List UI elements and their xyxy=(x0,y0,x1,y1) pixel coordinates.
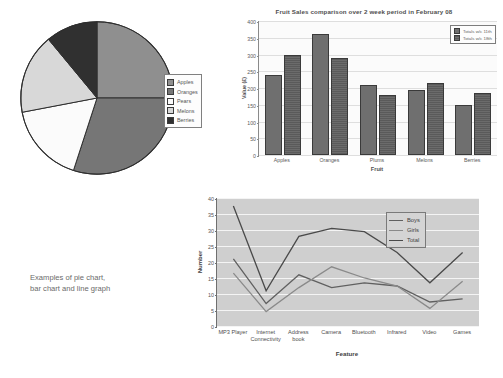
bar-x-tick-melons: Melons xyxy=(401,157,449,163)
bar-x-tick-apples: Apples xyxy=(258,157,306,163)
pie-svg xyxy=(18,19,176,177)
line-x-tick-internet-connectivity: Internet Connectivity xyxy=(249,329,282,343)
legend-item-week2: Totals w/c 18th xyxy=(454,35,492,42)
bar-x-axis-label: Fruit xyxy=(258,166,496,172)
bar-x-axis-ticks: ApplesOrangesPlumsMelonsBerries xyxy=(258,157,496,163)
bar-group-plums xyxy=(354,21,402,155)
legend-dash-total xyxy=(389,240,403,241)
bar-y-tick-350: 350 xyxy=(230,36,256,42)
legend-item-melons: Melons xyxy=(167,106,198,115)
bar-y-tick-100: 100 xyxy=(230,120,256,126)
legend-swatch-week1 xyxy=(454,28,461,35)
line-series-total xyxy=(233,206,462,291)
line-y-axis-label: Number xyxy=(197,251,203,274)
line-x-axis-ticks: MP3 PlayerInternet ConnectivityAddress b… xyxy=(216,329,478,343)
caption-line-2: bar chart and line graph xyxy=(30,283,180,294)
legend-label-girls: Girls xyxy=(407,227,419,233)
bar-x-tick-berries: Berries xyxy=(448,157,496,163)
line-y-tick-40: 40 xyxy=(190,196,214,202)
legend-swatch-berries xyxy=(167,117,174,124)
bar-y-tick-50: 50 xyxy=(230,136,256,142)
legend-swatch-melons xyxy=(167,107,174,114)
legend-item-apples: Apples xyxy=(167,78,198,87)
legend-swatch-week2 xyxy=(454,35,461,42)
bar-group-apples xyxy=(259,21,307,155)
line-y-tick-10: 10 xyxy=(190,292,214,298)
legend-label-week1: Totals w/c 11th xyxy=(463,29,492,34)
line-legend: Boys Girls Total xyxy=(386,212,426,248)
bar-plums-series1 xyxy=(360,85,377,155)
legend-item-boys: Boys xyxy=(389,215,420,225)
legend-swatch-apples xyxy=(167,79,174,86)
legend-item-week1: Totals w/c 11th xyxy=(454,28,492,35)
legend-label-apples: Apples xyxy=(177,79,193,85)
legend-label-oranges: Oranges xyxy=(177,89,198,95)
bar-gridline: 0 xyxy=(259,155,497,156)
caption-line-1: Examples of pie chart, xyxy=(30,272,180,283)
legend-label-week2: Totals w/c 18th xyxy=(463,36,492,41)
bar-y-axis-label: Value (£) xyxy=(241,77,247,99)
line-chart: 0510152025303540 Number MP3 PlayerIntern… xyxy=(186,190,501,376)
line-x-tick-infrared: Infrared xyxy=(380,329,413,343)
pie-legend: Apples Oranges Pears Melons Berries xyxy=(164,74,202,128)
legend-label-boys: Boys xyxy=(407,217,420,223)
pie-chart: Apples Oranges Pears Melons Berries xyxy=(14,16,226,181)
legend-item-berries: Berries xyxy=(167,116,198,125)
legend-label-total: Total xyxy=(407,237,419,243)
pie-slice-apples xyxy=(97,22,173,98)
legend-item-oranges: Oranges xyxy=(167,87,198,96)
bar-group-oranges xyxy=(307,21,355,155)
figure-caption: Examples of pie chart, bar chart and lin… xyxy=(30,272,180,294)
legend-label-melons: Melons xyxy=(177,108,194,114)
bar-legend: Totals w/c 11th Totals w/c 18th xyxy=(450,25,496,44)
line-y-tick-25: 25 xyxy=(190,244,214,250)
line-x-axis-label: Feature xyxy=(216,350,478,357)
legend-swatch-oranges xyxy=(167,88,174,95)
bar-y-tick-0: 0 xyxy=(230,153,256,159)
bar-apples-series2 xyxy=(284,55,301,156)
bar-x-tick-oranges: Oranges xyxy=(306,157,354,163)
line-x-tick-games: Games xyxy=(445,329,478,343)
bar-group-melons xyxy=(402,21,450,155)
bar-y-tick-150: 150 xyxy=(230,103,256,109)
line-y-tick-5: 5 xyxy=(190,308,214,314)
line-y-tick-0: 0 xyxy=(190,324,214,330)
line-plot-area: 0510152025303540 Number xyxy=(216,198,479,327)
legend-label-pears: Pears xyxy=(177,98,191,104)
bar-y-tick-400: 400 xyxy=(230,19,256,25)
legend-label-berries: Berries xyxy=(177,117,194,123)
bar-berries-series2 xyxy=(474,93,491,155)
bar-oranges-series1 xyxy=(312,34,329,155)
line-x-tick-video: Video xyxy=(413,329,446,343)
pie-chart-graphic xyxy=(18,19,176,177)
bar-apples-series1 xyxy=(265,75,282,155)
line-y-tick-35: 35 xyxy=(190,212,214,218)
bar-y-tick-300: 300 xyxy=(230,53,256,59)
line-gridline: 0 xyxy=(217,326,479,327)
legend-item-girls: Girls xyxy=(389,225,420,235)
bar-melons-series1 xyxy=(408,90,425,155)
legend-dash-boys xyxy=(389,220,403,221)
line-x-tick-mp3-player: MP3 Player xyxy=(216,329,249,343)
line-series-svg xyxy=(217,198,479,326)
legend-item-pears: Pears xyxy=(167,97,198,106)
bar-y-tick-250: 250 xyxy=(230,69,256,75)
line-y-tick-30: 30 xyxy=(190,228,214,234)
bar-chart: Fruit Sales comparison over 2 week perio… xyxy=(228,8,500,180)
line-x-tick-address-book: Address book xyxy=(282,329,315,343)
bar-plums-series2 xyxy=(379,95,396,155)
bar-chart-title: Fruit Sales comparison over 2 week perio… xyxy=(228,8,500,15)
bar-berries-series1 xyxy=(455,105,472,155)
line-y-tick-15: 15 xyxy=(190,276,214,282)
line-x-tick-camera: Camera xyxy=(314,329,347,343)
legend-swatch-pears xyxy=(167,98,174,105)
bar-x-tick-plums: Plums xyxy=(353,157,401,163)
line-x-tick-bluetooth: Bluetooth xyxy=(347,329,380,343)
legend-item-total: Total xyxy=(389,235,420,245)
legend-dash-girls xyxy=(389,230,403,231)
bar-oranges-series2 xyxy=(331,58,348,155)
bar-melons-series2 xyxy=(427,83,444,155)
